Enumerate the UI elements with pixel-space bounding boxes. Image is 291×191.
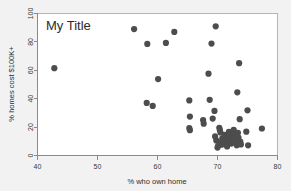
data-point: [155, 76, 161, 82]
data-point: [243, 129, 249, 135]
data-point: [234, 89, 240, 95]
x-tick-label: 70: [214, 163, 222, 170]
data-point: [205, 71, 211, 77]
x-axis-title: % who own home: [127, 177, 186, 186]
chart-title: My Title: [46, 18, 91, 33]
data-point: [163, 40, 169, 46]
data-point: [201, 121, 207, 127]
data-point: [187, 127, 193, 133]
data-point: [144, 41, 150, 47]
y-tick-label: 20: [27, 123, 34, 131]
data-point: [144, 100, 150, 106]
data-point: [238, 141, 244, 147]
y-tick-label: 0: [27, 153, 34, 157]
chart-figure: 4050607080 020406080100 My Title % who o…: [0, 0, 291, 191]
scatter-plot-canvas: 4050607080 020406080100 My Title % who o…: [0, 0, 291, 191]
data-point: [131, 26, 137, 32]
plot-area-frame: [38, 14, 278, 156]
data-point: [213, 23, 219, 29]
data-point: [259, 125, 265, 131]
data-point: [207, 97, 213, 103]
y-tick-label: 100: [27, 8, 34, 20]
x-tick-label: 50: [94, 163, 102, 170]
y-tick-label: 60: [27, 66, 34, 74]
data-point: [244, 107, 250, 113]
data-point: [236, 60, 242, 66]
y-tick-label: 40: [27, 95, 34, 103]
x-tick-label: 80: [274, 163, 282, 170]
x-tick-label: 60: [154, 163, 162, 170]
data-point: [237, 116, 243, 122]
data-point: [210, 115, 216, 121]
data-point: [51, 65, 57, 71]
data-point: [211, 108, 217, 114]
y-tick-label: 80: [27, 38, 34, 46]
data-point: [187, 113, 193, 119]
data-point: [208, 41, 214, 47]
data-point: [171, 29, 177, 35]
data-point: [245, 142, 251, 148]
data-point: [150, 103, 156, 109]
y-axis-title: % homes cost $100K+: [7, 46, 16, 122]
data-point: [186, 97, 192, 103]
x-tick-label: 40: [34, 163, 42, 170]
